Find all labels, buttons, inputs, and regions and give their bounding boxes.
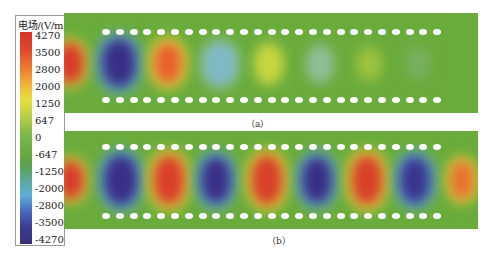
air-hole [102, 144, 110, 150]
air-hole [143, 144, 151, 150]
air-hole [157, 144, 165, 150]
field-lobe-negative [302, 157, 332, 203]
colorbar-tick: -647 [35, 149, 57, 160]
air-hole [268, 97, 276, 103]
air-hole [337, 29, 345, 35]
air-hole [254, 213, 262, 219]
air-hole [116, 97, 124, 103]
air-hole [364, 97, 372, 103]
colorbar-tick: -2000 [35, 183, 64, 194]
air-hole [281, 97, 289, 103]
air-hole [240, 144, 248, 150]
air-hole [323, 29, 331, 35]
air-hole [295, 144, 303, 150]
colorbar-tick: 1250 [35, 98, 60, 109]
air-hole [323, 144, 331, 150]
panel-b-caption: （b） [267, 234, 291, 247]
air-hole [337, 97, 345, 103]
air-hole [171, 144, 179, 150]
air-hole [212, 213, 220, 219]
air-hole [102, 29, 110, 35]
air-hole [116, 29, 124, 35]
air-hole [130, 213, 138, 219]
air-hole [116, 144, 124, 150]
air-hole [406, 144, 414, 150]
air-hole [433, 213, 441, 219]
colorbar-tick: 2800 [35, 64, 60, 75]
air-hole [392, 97, 400, 103]
colorbar-legend: 电场/(V/m) 4270 3500 2800 2000 1250 647 0 … [15, 15, 65, 246]
air-hole [309, 29, 317, 35]
air-hole [337, 213, 345, 219]
air-hole [157, 97, 165, 103]
air-hole [309, 144, 317, 150]
air-hole [350, 144, 358, 150]
air-hole [281, 144, 289, 150]
air-hole [323, 97, 331, 103]
air-hole [378, 213, 386, 219]
air-hole [143, 97, 151, 103]
air-hole [240, 97, 248, 103]
air-hole [364, 213, 372, 219]
air-hole [212, 97, 220, 103]
air-hole [350, 213, 358, 219]
air-hole [171, 97, 179, 103]
air-hole [268, 29, 276, 35]
field-lobe-positive [351, 155, 383, 205]
air-hole [433, 144, 441, 150]
air-hole [102, 213, 110, 219]
air-hole [337, 144, 345, 150]
field-map-panel-b [64, 131, 478, 229]
air-hole [378, 29, 386, 35]
air-hole [102, 97, 110, 103]
colorbar-tick: -1250 [35, 166, 64, 177]
air-hole [378, 97, 386, 103]
air-hole [392, 144, 400, 150]
air-hole [433, 97, 441, 103]
air-hole [171, 213, 179, 219]
colorbar-tick: 4270 [35, 30, 60, 41]
air-hole [143, 213, 151, 219]
colorbar-tick: 2000 [35, 81, 60, 92]
air-hole [350, 29, 358, 35]
air-hole [157, 213, 165, 219]
air-hole [419, 97, 427, 103]
air-hole [212, 144, 220, 150]
air-hole [185, 213, 193, 219]
air-hole [185, 29, 193, 35]
field-lobe-negative [306, 45, 334, 83]
field-lobe-positive [251, 155, 283, 205]
air-hole [295, 97, 303, 103]
colorbar-tick: -2800 [35, 200, 64, 211]
air-hole [406, 29, 414, 35]
field-lobe-negative [400, 157, 430, 203]
air-hole [171, 29, 179, 35]
air-hole [323, 213, 331, 219]
air-hole [433, 29, 441, 35]
field-lobe-negative [406, 47, 430, 79]
air-hole [295, 29, 303, 35]
air-hole [254, 97, 262, 103]
air-hole [199, 97, 207, 103]
air-hole [350, 97, 358, 103]
air-hole [226, 144, 234, 150]
colorbar-tick: 647 [35, 115, 54, 126]
air-hole [226, 213, 234, 219]
field-lobe-positive [154, 43, 182, 83]
air-hole [240, 213, 248, 219]
field-lobe-negative [102, 39, 136, 87]
air-hole [199, 213, 207, 219]
air-hole [157, 29, 165, 35]
colorbar-gradient [20, 32, 32, 244]
field-lobe-positive [153, 155, 185, 205]
air-hole [406, 213, 414, 219]
air-hole [378, 144, 386, 150]
air-hole [309, 213, 317, 219]
air-hole [130, 144, 138, 150]
air-hole [295, 213, 303, 219]
air-hole [254, 144, 262, 150]
air-hole [199, 29, 207, 35]
colorbar-tick: 0 [35, 132, 41, 143]
air-hole [185, 97, 193, 103]
air-hole [419, 29, 427, 35]
